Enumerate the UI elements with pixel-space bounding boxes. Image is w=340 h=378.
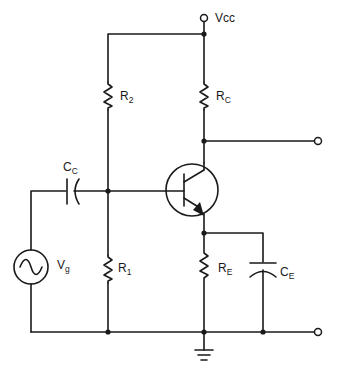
vcc-label: Vcc bbox=[215, 11, 235, 25]
top-rail bbox=[108, 31, 207, 82]
ground-icon bbox=[195, 332, 213, 360]
r2-label: R2 bbox=[120, 89, 134, 105]
npn-transistor bbox=[166, 163, 218, 232]
ac-source-vg: Vg bbox=[14, 250, 70, 332]
vcc-terminal bbox=[201, 15, 208, 22]
output-line bbox=[201, 138, 321, 145]
ground-rail-terminal bbox=[315, 329, 322, 336]
resistor-r2: R2 bbox=[104, 82, 134, 110]
resistor-rc: RC bbox=[200, 82, 231, 110]
re-label: RE bbox=[218, 261, 233, 277]
vg-label: Vg bbox=[57, 258, 70, 274]
ground-rail bbox=[31, 329, 322, 336]
resistor-r1: R1 bbox=[104, 255, 132, 332]
cc-label: CC bbox=[63, 160, 78, 176]
output-terminal bbox=[315, 138, 322, 145]
ce-label: CE bbox=[280, 265, 295, 281]
circuit-diagram: Vcc R2 RC CC bbox=[0, 0, 340, 378]
r1-label: R1 bbox=[118, 261, 132, 277]
rc-label: RC bbox=[216, 89, 231, 105]
emitter-network: RE CE bbox=[200, 230, 295, 332]
vcc-supply: Vcc bbox=[201, 11, 236, 34]
